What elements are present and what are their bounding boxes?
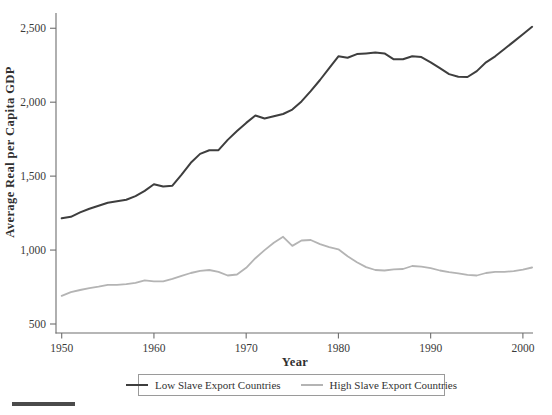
low-line-swatch-icon: [126, 384, 148, 387]
legend-item-high-slave-export: High Slave Export Countries: [301, 379, 457, 391]
legend-label-high: High Slave Export Countries: [330, 379, 457, 391]
y-tick-label: 2,500: [20, 22, 46, 35]
chart-svg: Average Real per Capita GDP Year 5001,00…: [0, 0, 552, 415]
scan-artifact-bar: [12, 402, 75, 406]
y-tick-label: 500: [29, 318, 47, 330]
x-tick-label: 1970: [235, 342, 258, 354]
x-tick-label: 1980: [327, 342, 350, 354]
y-axis-title: Average Real per Capita GDP: [3, 66, 17, 237]
high-line-swatch-icon: [301, 384, 323, 387]
x-tick-label: 1950: [50, 342, 73, 354]
x-tick-label: 1990: [419, 342, 442, 354]
high-slave-export-line: [62, 237, 532, 296]
legend-item-low-slave-export: Low Slave Export Countries: [126, 379, 281, 391]
low-slave-export-line: [62, 27, 532, 219]
y-tick-label: 2,000: [20, 96, 46, 109]
x-tick-label: 2000: [511, 342, 534, 354]
legend: Low Slave Export Countries High Slave Ex…: [138, 374, 445, 396]
x-tick-label: 1960: [142, 342, 165, 354]
y-tick-label: 1,500: [20, 170, 46, 183]
figure: Average Real per Capita GDP Year 5001,00…: [0, 0, 552, 415]
y-tick-label: 1,000: [20, 244, 46, 257]
legend-label-low: Low Slave Export Countries: [155, 379, 281, 391]
x-axis-title: Year: [282, 355, 309, 369]
